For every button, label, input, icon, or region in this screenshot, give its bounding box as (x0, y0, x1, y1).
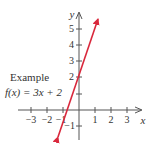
annotation-equation: f(x) = 3x + 2 (5, 86, 62, 99)
y-tick-label: 5 (69, 23, 74, 34)
x-tick-label: 1 (93, 114, 98, 125)
y-tick-label: 4 (69, 39, 74, 50)
y-tick-label: −1 (64, 120, 75, 131)
annotation-title: Example (10, 71, 49, 83)
y-tick-label: 3 (69, 55, 74, 66)
x-tick-label: 3 (125, 114, 130, 125)
y-tick-label: 2 (69, 71, 74, 82)
x-axis-label: x (140, 114, 146, 126)
y-axis-label: y (69, 8, 75, 20)
chart: −3 −2 −1 1 2 3 5 4 3 2 −1 x y Example f(… (0, 0, 150, 145)
x-tick-label: −2 (42, 114, 53, 125)
x-tick-label: 2 (109, 114, 114, 125)
x-tick-label: −3 (26, 114, 37, 125)
